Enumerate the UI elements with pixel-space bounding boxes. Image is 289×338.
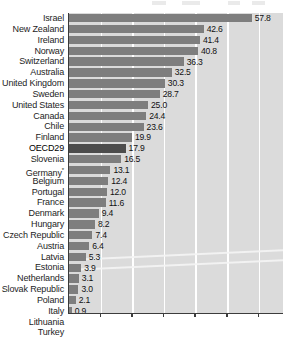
category-label: Austria	[0, 241, 67, 252]
category-label: Belgium	[0, 176, 67, 187]
bar-value-label: 13.1	[113, 165, 129, 175]
bar-row: 13.1	[69, 165, 283, 176]
category-label: Netherlands	[0, 273, 67, 284]
category-label: Chile	[0, 121, 67, 132]
category-label: Turkey	[0, 327, 67, 338]
category-label: Sweden	[0, 89, 67, 100]
bar-value-label: 41.4	[203, 35, 219, 45]
scan-artifact	[228, 1, 240, 5]
bar-value-label: 40.8	[201, 46, 217, 56]
bar	[69, 209, 99, 217]
bar	[69, 144, 126, 152]
bar-value-label: 3.0	[81, 284, 92, 294]
category-label: Lithuania	[0, 317, 67, 328]
bar-row: 3.9	[69, 262, 283, 273]
bar-value-label: 3.9	[84, 263, 95, 273]
bar-value-label: 3.1	[82, 273, 93, 283]
category-label: Finland	[0, 132, 67, 143]
plot-area: 57.842.641.440.836.332.530.328.725.024.4…	[68, 13, 283, 313]
bar-value-label: 25.0	[151, 100, 167, 110]
bar	[69, 68, 172, 76]
bar-row: 17.9	[69, 143, 283, 154]
bar-row: 57.8	[69, 13, 283, 24]
category-label: Portugal	[0, 187, 67, 198]
bar-row: 30.3	[69, 78, 283, 89]
category-label: France	[0, 197, 67, 208]
bar	[69, 231, 92, 239]
bar	[69, 285, 78, 293]
bar-row: 28.7	[69, 89, 283, 100]
bar-value-label: 12.4	[111, 176, 127, 186]
bar-value-label: 19.9	[135, 132, 151, 142]
axis-tick	[131, 314, 133, 318]
bar-row: 23.6	[69, 121, 283, 132]
bar-value-label: 7.4	[95, 230, 106, 240]
category-label: Norway	[0, 46, 67, 57]
category-label: United States	[0, 100, 67, 111]
bar-row: 24.4	[69, 111, 283, 122]
bar	[69, 112, 146, 120]
bar	[69, 47, 198, 55]
bar	[69, 220, 95, 228]
bar-value-label: 2.1	[79, 295, 90, 305]
axis-tick	[163, 314, 165, 318]
bar	[69, 253, 86, 261]
bar	[69, 166, 110, 174]
scan-artifact	[182, 1, 200, 5]
bar-row: 36.3	[69, 56, 283, 67]
category-label: United Kingdom	[0, 78, 67, 89]
bar-value-label: 6.4	[92, 241, 103, 251]
axis-tick	[226, 314, 228, 318]
bar	[69, 90, 160, 98]
category-label: Germany*	[0, 165, 67, 176]
bar-value-label: 28.7	[163, 89, 179, 99]
axis-tick	[100, 314, 102, 318]
bar-value-label: 12.0	[110, 187, 126, 197]
category-label: New Zealand	[0, 24, 67, 35]
bar	[69, 198, 106, 206]
bar	[69, 274, 79, 282]
bar-value-label: 42.6	[207, 24, 223, 34]
category-label: Switzerland	[0, 56, 67, 67]
bar	[69, 177, 108, 185]
category-label: Czech Republic	[0, 230, 67, 241]
category-label: Denmark	[0, 208, 67, 219]
bar-value-label: 17.9	[129, 143, 145, 153]
axis-tick	[194, 314, 196, 318]
category-label: Italy	[0, 306, 67, 317]
bar-row: 11.6	[69, 197, 283, 208]
category-label: Canada	[0, 111, 67, 122]
scan-artifact	[252, 1, 265, 5]
bar-row: 12.0	[69, 187, 283, 198]
category-label: Israel	[0, 13, 67, 24]
bar	[69, 155, 121, 163]
bar-value-label: 23.6	[147, 122, 163, 132]
bar-row: 3.0	[69, 284, 283, 295]
bar	[69, 57, 184, 65]
axis-tick	[258, 314, 260, 318]
bar-row: 42.6	[69, 24, 283, 35]
bar-row: 19.9	[69, 132, 283, 143]
footnote-marker: *	[62, 167, 64, 173]
bar	[69, 36, 200, 44]
bar-row: 5.3	[69, 252, 283, 263]
bar-value-label: 57.8	[255, 13, 271, 23]
category-axis-labels: IsraelNew ZealandIrelandNorwaySwitzerlan…	[0, 13, 67, 338]
bar-row: 41.4	[69, 35, 283, 46]
category-label: Australia	[0, 67, 67, 78]
category-label: Ireland	[0, 35, 67, 46]
bars: 57.842.641.440.836.332.530.328.725.024.4…	[69, 13, 283, 313]
bar	[69, 101, 148, 109]
bar	[69, 25, 204, 33]
bar-value-label: 24.4	[149, 111, 165, 121]
bar-row: 8.2	[69, 219, 283, 230]
category-label: Estonia	[0, 262, 67, 273]
bar-row: 12.4	[69, 176, 283, 187]
category-label: OECD29	[0, 143, 67, 154]
bar-row: 9.4	[69, 208, 283, 219]
bar-value-label: 30.3	[168, 78, 184, 88]
category-label: Poland	[0, 295, 67, 306]
bar-value-label: 36.3	[187, 57, 203, 67]
bar-row: 32.5	[69, 67, 283, 78]
bar-row: 40.8	[69, 46, 283, 57]
